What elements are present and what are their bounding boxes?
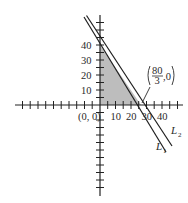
label-L1: L 1 (155, 140, 167, 155)
svg-text:2: 2 (178, 131, 182, 139)
fraction-denominator: 3 (155, 75, 160, 86)
annotation-pointer (142, 87, 150, 103)
y-tick-label-30: 30 (81, 55, 92, 66)
x-tick-label-20: 20 (126, 111, 137, 122)
x-tick-label-10: 10 (111, 111, 122, 122)
svg-text:L: L (155, 140, 162, 152)
intercept-annotation: 80 3 ,0 (142, 65, 174, 103)
y-tick-label-40: 40 (81, 40, 92, 51)
svg-text:L: L (170, 124, 177, 136)
svg-text:1: 1 (163, 147, 167, 155)
label-L2: L 2 (170, 124, 182, 139)
y-tick-label-20: 20 (81, 70, 92, 81)
x-tick-label-40: 40 (157, 111, 168, 122)
lp-diagram: 40 30 20 10 (0, 0) 10 20 30 40 80 3 ,0 L… (0, 0, 188, 203)
x-tick-label-30: 30 (142, 111, 153, 122)
fraction-suffix: ,0 (163, 71, 171, 82)
origin-label: (0, 0) (78, 111, 101, 123)
y-tick-label-10: 10 (81, 85, 92, 96)
